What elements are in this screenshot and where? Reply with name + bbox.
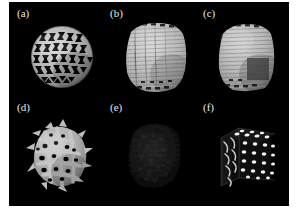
- panel-d: (d): [9, 98, 104, 204]
- figure-canvas: (a): [9, 2, 289, 206]
- panel-b-render: [117, 18, 195, 98]
- panel-a: (a): [9, 2, 104, 104]
- panel-b: (b): [102, 2, 197, 104]
- panel-e-label: (e): [110, 102, 122, 113]
- panel-c: (c): [195, 2, 289, 104]
- panel-a-render: [27, 22, 97, 92]
- panel-c-render: [207, 18, 285, 98]
- panel-e-render: [116, 116, 194, 196]
- panel-a-label: (a): [17, 8, 29, 19]
- panel-d-render: [23, 116, 99, 196]
- panel-f: (f): [195, 98, 289, 204]
- panel-f-label: (f): [203, 102, 214, 113]
- panel-d-label: (d): [17, 102, 30, 113]
- panel-e: (e): [102, 98, 197, 204]
- panel-f-render: [205, 116, 287, 198]
